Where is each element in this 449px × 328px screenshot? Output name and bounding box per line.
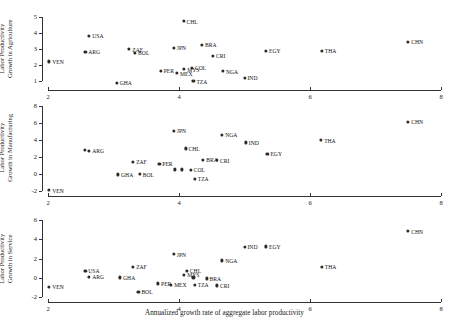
x-axis-line <box>48 90 441 91</box>
data-point-chn <box>407 120 410 123</box>
y-tick-label: 4 <box>16 235 37 243</box>
panel-manufacturing: 2468-202468Labor ProductivityGrowth in M… <box>0 118 449 216</box>
x-axis-title: Annualized growth rate of aggregate labo… <box>0 309 449 317</box>
x-tick <box>179 299 180 302</box>
x-tick <box>441 299 442 302</box>
x-tick <box>179 87 180 90</box>
data-point-tza <box>192 80 195 83</box>
y-tick-label: 1 <box>16 77 37 85</box>
data-point-jpn <box>172 46 175 49</box>
y-tick-label: -2 <box>16 293 37 301</box>
y-tick <box>39 259 42 260</box>
point-label-per: PER <box>162 161 172 167</box>
y-tick-label: 6 <box>16 119 37 127</box>
y-axis-line <box>42 220 43 297</box>
y-tick-label: 2 <box>16 61 37 69</box>
y-axis-title-line: Growth in Agriculture <box>6 9 14 89</box>
data-point-tha <box>320 49 323 52</box>
point-label-gha: GHA <box>121 172 133 178</box>
data-point-bol <box>134 51 137 54</box>
x-tick <box>441 87 442 90</box>
data-point-mex <box>175 72 178 75</box>
scatter-figure: 246812345Labor ProductivityGrowth in Agr… <box>0 0 449 328</box>
x-tick-label: 2 <box>36 93 60 101</box>
data-point-egy <box>265 245 268 248</box>
data-point-arg <box>88 275 91 278</box>
y-axis-title-line: Labor Productivity <box>0 108 6 188</box>
point-label-tha: THA <box>324 138 336 144</box>
point-label-chl: CHL <box>187 19 198 25</box>
data-point-egy <box>265 49 268 52</box>
point-label-bra: BRA <box>210 276 222 282</box>
y-axis-title-line: Growth in Manufacturing <box>6 108 14 188</box>
point-label-jpn: JPN <box>177 252 186 258</box>
point-label-zaf: ZAF <box>136 264 147 270</box>
y-tick <box>39 239 42 240</box>
point-label-nga: NGA <box>225 258 237 264</box>
y-tick-label: 4 <box>16 136 37 144</box>
x-tick <box>441 193 442 196</box>
data-point-usa <box>88 34 91 37</box>
point-label-ind: IND <box>249 140 259 146</box>
data-point-usa <box>84 269 87 272</box>
x-tick <box>48 193 49 196</box>
y-axis-line <box>42 17 43 81</box>
y-tick-label: 0 <box>16 274 37 282</box>
x-tick <box>310 193 311 196</box>
data-point-nga <box>221 259 224 262</box>
point-label-bol: BOL <box>138 50 149 56</box>
x-tick-label: 4 <box>167 93 191 101</box>
x-tick <box>310 87 311 90</box>
y-tick <box>39 174 42 175</box>
data-point-zaf <box>132 265 135 268</box>
point-label-arg: ARG <box>88 49 100 55</box>
point-label-chn: CHN <box>411 39 423 45</box>
x-axis-line <box>48 196 441 197</box>
data-point-bra <box>205 277 208 280</box>
x-tick-label: 8 <box>429 199 449 207</box>
data-point-bra <box>202 158 205 161</box>
y-axis-line <box>42 106 43 190</box>
point-label-tha: THA <box>325 264 337 270</box>
point-label-usa: USA <box>92 33 103 39</box>
y-tick-label: 4 <box>16 29 37 37</box>
point-label-per: PER <box>164 68 174 74</box>
data-point-mys <box>183 273 186 276</box>
data-point-cri <box>215 159 218 162</box>
x-tick-label: 2 <box>36 199 60 207</box>
point-label-nga: NGA <box>226 69 238 75</box>
y-tick-label: 3 <box>16 45 37 53</box>
data-point-cri <box>211 54 214 57</box>
data-point-jpn <box>172 129 175 132</box>
y-tick-label: 2 <box>16 153 37 161</box>
x-tick <box>48 87 49 90</box>
point-label-mex: MEX <box>174 282 186 288</box>
data-point-usa <box>83 149 86 152</box>
data-point-chn <box>407 230 410 233</box>
data-point-zaf <box>128 48 131 51</box>
data-point-tza <box>193 177 196 180</box>
data-point-ven <box>48 60 51 63</box>
point-label-bol: BOL <box>143 172 154 178</box>
y-tick <box>39 17 42 18</box>
y-tick-label: 8 <box>16 102 37 110</box>
data-point-ind <box>243 76 246 79</box>
x-tick <box>48 299 49 302</box>
point-label-arg: ARG <box>92 148 104 154</box>
data-point-col <box>189 168 192 171</box>
x-tick <box>310 299 311 302</box>
x-tick-label: 8 <box>429 93 449 101</box>
y-tick-label: -2 <box>16 187 37 195</box>
data-point-nga <box>221 133 224 136</box>
point-label-bra: BRA <box>205 42 217 48</box>
y-tick-label: 2 <box>16 255 37 263</box>
x-tick-label: 4 <box>167 199 191 207</box>
y-tick <box>39 278 42 279</box>
y-tick <box>39 123 42 124</box>
point-label-cri: CRI <box>220 158 229 164</box>
point-label-tza: TZA <box>198 282 209 288</box>
point-label-jpn: JPN <box>177 128 186 134</box>
data-point-per <box>158 162 161 165</box>
point-label-egy: EGY <box>269 48 281 54</box>
panel-agriculture: 246812345Labor ProductivityGrowth in Agr… <box>0 12 449 110</box>
